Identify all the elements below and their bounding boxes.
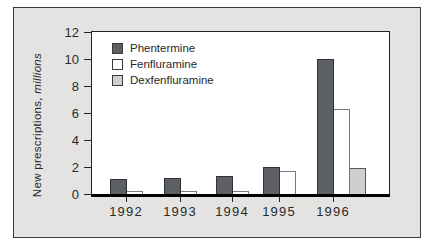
legend-label-phentermine: Phentermine bbox=[130, 42, 195, 54]
y-tick-4 bbox=[84, 140, 91, 141]
x-tick-1994 bbox=[232, 197, 233, 202]
bar-fenfluramine-1993 bbox=[180, 191, 197, 194]
x-tick-1996 bbox=[333, 197, 334, 202]
chart-panel: New prescriptions, millions PhentermineF… bbox=[13, 7, 421, 238]
x-tick-label-1994: 1994 bbox=[209, 204, 255, 219]
x-tick-1993 bbox=[180, 197, 181, 202]
x-tick-label-1993: 1993 bbox=[157, 204, 203, 219]
legend-label-fenfluramine: Fenfluramine bbox=[130, 58, 197, 70]
y-axis-title-main: New prescriptions, bbox=[31, 97, 43, 197]
legend: PhentermineFenfluramineDexfenfluramine bbox=[112, 40, 214, 88]
y-tick-10 bbox=[84, 59, 91, 60]
legend-item-phentermine: Phentermine bbox=[112, 40, 214, 56]
y-tick-label-0: 0 bbox=[52, 187, 79, 202]
y-tick-label-10: 10 bbox=[52, 52, 79, 67]
bar-phentermine-1996 bbox=[317, 59, 334, 194]
legend-label-dexfenfluramine: Dexfenfluramine bbox=[130, 74, 214, 86]
y-axis-title: New prescriptions, millions bbox=[31, 53, 43, 197]
bar-fenfluramine-1996 bbox=[333, 109, 350, 194]
y-tick-8 bbox=[84, 86, 91, 87]
bar-phentermine-1995 bbox=[263, 167, 280, 194]
phentermine-swatch-icon bbox=[112, 43, 123, 54]
figure: New prescriptions, millions PhentermineF… bbox=[0, 0, 428, 243]
x-tick-label-1996: 1996 bbox=[310, 204, 356, 219]
plot-area: PhentermineFenfluramineDexfenfluramine bbox=[91, 31, 390, 197]
bar-dexfenfluramine-1996 bbox=[349, 168, 366, 194]
y-tick-label-8: 8 bbox=[52, 79, 79, 94]
x-tick-1992 bbox=[126, 197, 127, 202]
y-tick-2 bbox=[84, 167, 91, 168]
bar-fenfluramine-1994 bbox=[232, 191, 249, 194]
bar-fenfluramine-1995 bbox=[279, 171, 296, 194]
bar-fenfluramine-1992 bbox=[126, 191, 143, 194]
y-tick-6 bbox=[84, 113, 91, 114]
y-tick-0 bbox=[84, 194, 91, 195]
fenfluramine-swatch-icon bbox=[112, 59, 123, 70]
y-tick-12 bbox=[84, 32, 91, 33]
bar-phentermine-1994 bbox=[216, 176, 233, 194]
y-tick-label-2: 2 bbox=[52, 160, 79, 175]
x-tick-1995 bbox=[279, 197, 280, 202]
y-tick-label-12: 12 bbox=[52, 25, 79, 40]
dexfenfluramine-swatch-icon bbox=[112, 75, 123, 86]
x-tick-label-1995: 1995 bbox=[256, 204, 302, 219]
bar-phentermine-1993 bbox=[164, 178, 181, 194]
legend-item-fenfluramine: Fenfluramine bbox=[112, 56, 214, 72]
bar-phentermine-1992 bbox=[110, 179, 127, 194]
y-axis-title-units: millions bbox=[31, 53, 43, 94]
x-tick-label-1992: 1992 bbox=[103, 204, 149, 219]
legend-item-dexfenfluramine: Dexfenfluramine bbox=[112, 72, 214, 88]
y-tick-label-4: 4 bbox=[52, 133, 79, 148]
y-tick-label-6: 6 bbox=[52, 106, 79, 121]
